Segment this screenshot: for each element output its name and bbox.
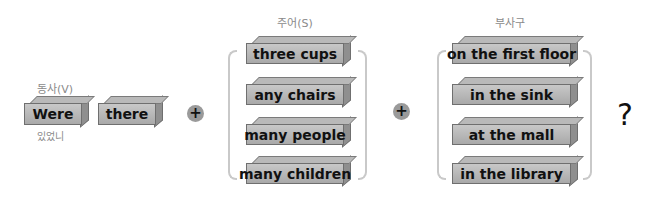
subject-block-3: many people [246, 117, 356, 147]
verb-label: 동사(V) [30, 80, 80, 96]
subject-block-2: any chairs [246, 77, 356, 107]
subject-block-4: many children [246, 156, 356, 186]
adverb-block-4: in the library [452, 156, 582, 186]
adverb-label: 부사구 [480, 14, 540, 30]
block-text: many people [246, 124, 344, 145]
block-text: many children [246, 163, 344, 184]
adverb-block-1: on the first floor [452, 36, 582, 66]
subject-block-1: three cups [246, 36, 356, 66]
block-text: three cups [246, 43, 344, 64]
plus-icon: + [393, 103, 410, 120]
adverb-bracket-left [437, 50, 446, 180]
block-text: in the sink [452, 84, 571, 105]
adverb-block-2: in the sink [452, 77, 582, 107]
subject-label: 주어(S) [265, 14, 325, 30]
block-text: there [98, 103, 156, 125]
block-text: Were [24, 103, 82, 125]
adverb-block-3: at the mall [452, 117, 582, 147]
block-text: on the first floor [452, 43, 571, 64]
subject-bracket-left [228, 50, 237, 180]
verb-translation: 있었니 [30, 128, 70, 143]
subject-bracket-right [358, 50, 367, 180]
question-mark: ? [617, 97, 633, 132]
block-text: any chairs [246, 84, 344, 105]
plus-icon: + [187, 105, 204, 122]
block-text: in the library [452, 163, 571, 184]
word-block-were: Were [24, 96, 96, 126]
adverb-bracket-right [583, 50, 592, 180]
word-block-there: there [98, 96, 170, 126]
block-text: at the mall [452, 124, 571, 145]
